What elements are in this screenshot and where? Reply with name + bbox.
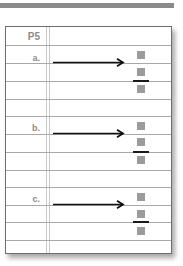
fraction-bar — [133, 80, 149, 82]
fraction-bar — [133, 151, 149, 153]
rule-line — [6, 187, 171, 188]
fraction-bar — [133, 221, 149, 223]
page-label: P5 — [28, 32, 40, 42]
rule-line — [6, 240, 171, 241]
answer-box[interactable] — [137, 122, 145, 130]
answer-box[interactable] — [137, 227, 145, 235]
answer-box[interactable] — [137, 68, 145, 76]
right-arrow-icon — [53, 200, 125, 209]
rule-line — [6, 116, 171, 117]
row-label-b: b. — [32, 123, 40, 133]
top-divider-bar — [0, 3, 174, 8]
answer-box[interactable] — [137, 51, 145, 59]
rule-line — [6, 45, 171, 46]
row-label-c: c. — [32, 194, 40, 204]
answer-box[interactable] — [137, 193, 145, 201]
answer-box[interactable] — [137, 210, 145, 218]
margin-line-1 — [46, 27, 47, 253]
rule-line — [6, 170, 171, 171]
row-label-a: a. — [32, 53, 40, 63]
margin-line-2 — [49, 27, 50, 253]
answer-box[interactable] — [137, 138, 145, 146]
answer-box[interactable] — [137, 156, 145, 164]
right-arrow-icon — [53, 58, 125, 67]
worksheet-card: P5 a. b. c. — [5, 26, 172, 254]
answer-box[interactable] — [137, 85, 145, 93]
right-arrow-icon — [53, 129, 125, 138]
rule-line — [6, 99, 171, 100]
